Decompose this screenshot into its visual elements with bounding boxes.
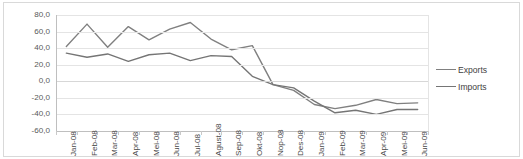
x-axis-tick-label: Feb-08 <box>91 130 99 156</box>
legend-label-exports: Exports <box>458 65 487 75</box>
x-axis-tick-label: Jan-08 <box>70 131 78 156</box>
gridline <box>56 48 428 49</box>
x-axis-tick-label: Sep-08 <box>235 130 243 156</box>
y-axis-tick-label: 0,0 <box>4 77 50 85</box>
x-axis-tick-label: Apr-08 <box>132 132 140 156</box>
y-axis-tick-label: 80,0 <box>4 11 50 19</box>
y-axis-tick-label: -20,0 <box>4 94 50 102</box>
gridline <box>56 65 428 66</box>
x-axis-tick-label: Okt-08 <box>256 132 264 156</box>
chart-legend: Exports Imports <box>436 61 516 95</box>
legend-line-swatch-exports <box>436 69 456 70</box>
gridline <box>56 15 428 16</box>
x-axis-tick-label: Feb-09 <box>339 130 347 156</box>
x-axis-tick-label: Jan-09 <box>318 131 326 156</box>
legend-label-imports: Imports <box>458 82 487 92</box>
x-axis-tick-labels: Jan-08Feb-08Mar-08Apr-08Mei-08Jun-08Jul-… <box>56 78 428 158</box>
x-axis-tick-label: Mei-09 <box>401 131 409 156</box>
chart-plot-wrapper: 80,060,040,020,00,0-20,0-40,0-60,0 Jan-0… <box>4 3 521 158</box>
legend-item-exports[interactable]: Exports <box>436 61 516 78</box>
x-axis-tick-label: Apr-09 <box>380 132 388 156</box>
x-axis-tick-label: Jun-09 <box>421 131 429 156</box>
y-axis-tick-label: 20,0 <box>4 61 50 69</box>
legend-item-imports[interactable]: Imports <box>436 78 516 95</box>
x-axis-tick-label: Des-08 <box>297 130 305 156</box>
x-axis-tick-label: Mar-09 <box>359 130 367 156</box>
y-axis-tick-labels: 80,060,040,020,00,0-20,0-40,0-60,0 <box>4 3 54 158</box>
y-axis-tick-label: 60,0 <box>4 28 50 36</box>
x-axis-tick-label: Mei-08 <box>153 131 161 156</box>
y-axis-tick-label: -60,0 <box>4 127 50 135</box>
x-axis-tick-label: Jun-08 <box>173 131 181 156</box>
x-axis-tick-label: Agust-08 <box>215 124 223 156</box>
y-axis-tick-label: 40,0 <box>4 44 50 52</box>
gridline <box>56 32 428 33</box>
x-axis-tick-label: Jul-08 <box>194 134 202 156</box>
x-axis-tick-label: Mar-08 <box>111 130 119 156</box>
y-axis-tick-label: -40,0 <box>4 110 50 118</box>
legend-line-swatch-imports <box>436 86 456 87</box>
chart-container: 80,060,040,020,00,0-20,0-40,0-60,0 Jan-0… <box>3 2 520 157</box>
plot-right-border <box>428 15 429 131</box>
x-axis-tick-label: Nop-08 <box>277 129 285 156</box>
